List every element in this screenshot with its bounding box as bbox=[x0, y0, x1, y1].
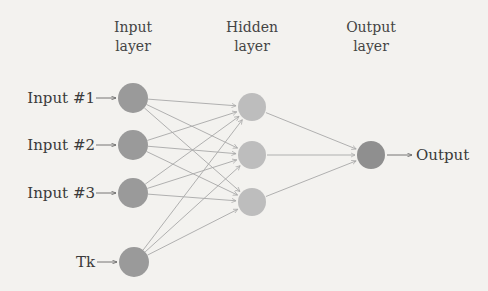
output-label: Output bbox=[416, 146, 469, 164]
hidden-node-2 bbox=[238, 141, 266, 169]
edge-input3-hidden2 bbox=[147, 160, 236, 189]
edge-hidden3-output bbox=[266, 161, 356, 197]
input-node-1 bbox=[118, 83, 148, 113]
edge-input4-hidden2 bbox=[145, 166, 240, 252]
edge-input3-hidden3 bbox=[148, 194, 236, 201]
header-output-line2: layer bbox=[326, 37, 416, 56]
header-hidden-layer: Hidden layer bbox=[207, 18, 297, 56]
input-node-3 bbox=[118, 178, 148, 208]
edge-input1-hidden1 bbox=[148, 99, 236, 106]
input-label-1: Input #1 bbox=[27, 89, 95, 107]
hidden-node-3 bbox=[238, 188, 266, 216]
header-hidden-line2: layer bbox=[207, 37, 297, 56]
input-node-2 bbox=[118, 130, 148, 160]
edge-hidden1-output bbox=[266, 113, 356, 149]
input-label-3: Input #3 bbox=[27, 184, 95, 202]
neural-network-diagram: Input layer Hidden layer Output layer In… bbox=[0, 0, 488, 291]
header-input-layer: Input layer bbox=[88, 18, 178, 56]
header-output-layer: Output layer bbox=[326, 18, 416, 56]
input-node-4 bbox=[119, 247, 149, 277]
header-hidden-line1: Hidden bbox=[207, 18, 297, 37]
header-output-line1: Output bbox=[326, 18, 416, 37]
output-node bbox=[357, 141, 385, 169]
header-input-line1: Input bbox=[88, 18, 178, 37]
input-label-2: Input #2 bbox=[27, 136, 95, 154]
hidden-node-1 bbox=[238, 93, 266, 121]
edge-input2-hidden1 bbox=[147, 112, 236, 141]
header-input-line2: layer bbox=[88, 37, 178, 56]
edge-input4-hidden3 bbox=[147, 209, 237, 255]
input-label-tk: Tk bbox=[76, 253, 95, 271]
